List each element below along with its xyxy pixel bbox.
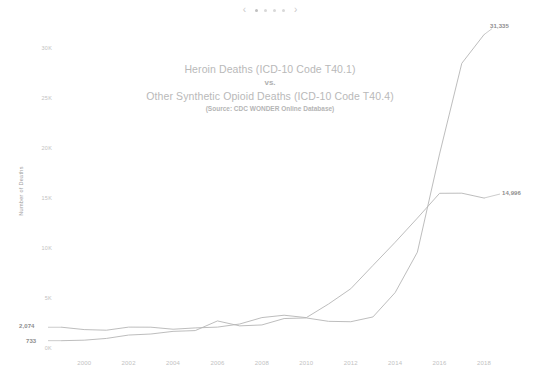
line-chart: Heroin Deaths (ICD-10 Code T40.1) vs. Ot…: [0, 0, 540, 385]
data-label-synthetic-start: 733: [26, 338, 36, 344]
data-label-heroin-end: 14,996: [502, 190, 521, 196]
chart-plot-area: [0, 0, 540, 385]
series-line-synthetic-opioid: [62, 35, 484, 341]
series-line-heroin: [62, 193, 484, 330]
leader-line-heroin-end: [484, 194, 500, 198]
data-label-synthetic-end: 31,335: [490, 23, 509, 29]
leader-line-synthetic-end: [484, 29, 492, 35]
data-label-heroin-start: 2,074: [19, 323, 35, 329]
